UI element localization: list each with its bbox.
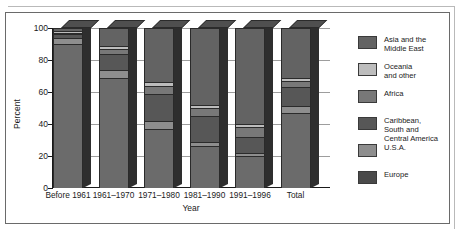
bar-top-face xyxy=(152,20,190,28)
bar-segment xyxy=(100,54,128,70)
bar-segment xyxy=(54,44,82,188)
bar-top-face xyxy=(107,20,145,28)
bar-segment xyxy=(145,28,173,82)
legend-label: Oceania and other xyxy=(384,62,450,80)
bar-side-face xyxy=(83,24,91,188)
bar-segment xyxy=(282,87,310,106)
bar-front-face xyxy=(99,28,129,188)
bar-segment xyxy=(191,108,219,116)
y-tick-label: 60 xyxy=(24,88,48,97)
legend-label: Europe xyxy=(384,170,450,179)
chart-legend: Asia and the Middle EastOceania and othe… xyxy=(358,35,450,197)
bar-segment xyxy=(145,121,173,129)
page-rule-top xyxy=(8,6,455,7)
bar-segment xyxy=(282,28,310,78)
legend-label: Caribbean, South and Central America xyxy=(384,116,450,144)
bar-column xyxy=(144,28,182,188)
legend-item[interactable]: U.S.A. xyxy=(358,143,450,161)
x-tick-label: Total xyxy=(267,190,325,200)
bar-column xyxy=(53,28,91,188)
legend-swatch-icon xyxy=(358,90,377,103)
bar-column xyxy=(190,28,228,188)
legend-item[interactable]: Africa xyxy=(358,89,450,107)
bar-segment xyxy=(191,116,219,142)
legend-label: U.S.A. xyxy=(384,143,450,152)
x-axis-title: Year xyxy=(52,203,330,213)
bar-front-face xyxy=(144,28,174,188)
bar-segment xyxy=(191,28,219,105)
y-tick-label: 40 xyxy=(24,120,48,129)
legend-swatch-icon xyxy=(358,117,377,130)
bar-segment xyxy=(236,156,264,188)
bar-segment xyxy=(236,137,264,153)
figure-page: Percent 100806040200 Before 19611961–197… xyxy=(0,0,461,235)
bar-segment xyxy=(236,127,264,137)
legend-swatch-icon xyxy=(358,171,377,184)
bar-top-face xyxy=(243,20,281,28)
bar-segment xyxy=(191,146,219,188)
legend-swatch-icon xyxy=(358,144,377,157)
bar-front-face xyxy=(281,28,311,188)
bar-front-face xyxy=(235,28,265,188)
y-tick-label: 80 xyxy=(24,56,48,65)
bar-segment xyxy=(282,113,310,188)
bar-segment xyxy=(236,28,264,124)
legend-label: Africa xyxy=(384,89,450,98)
y-tick-label: 100 xyxy=(24,24,48,33)
bar-front-face xyxy=(53,28,83,188)
bar-column xyxy=(281,28,319,188)
bar-side-face xyxy=(311,24,319,188)
legend-item[interactable]: Asia and the Middle East xyxy=(358,35,450,53)
bar-segment xyxy=(100,70,128,78)
bar-segment xyxy=(145,129,173,188)
legend-item[interactable]: Caribbean, South and Central America xyxy=(358,116,450,134)
legend-label: Asia and the Middle East xyxy=(384,35,450,53)
bar-top-face xyxy=(198,20,236,28)
legend-swatch-icon xyxy=(358,36,377,49)
legend-swatch-icon xyxy=(358,63,377,76)
chart-figure-frame: Percent 100806040200 Before 19611961–197… xyxy=(5,12,450,224)
legend-item[interactable]: Europe xyxy=(358,170,450,188)
plot-area: Percent 100806040200 Before 19611961–197… xyxy=(6,13,351,225)
bar-segment xyxy=(100,28,128,46)
y-axis-title: Percent xyxy=(12,82,22,146)
bar-segment xyxy=(100,78,128,188)
bar-top-face xyxy=(61,20,99,28)
y-tick-mark xyxy=(48,188,53,189)
bar-segment xyxy=(145,86,173,94)
bar-top-face xyxy=(289,20,327,28)
bar-segment xyxy=(145,94,173,121)
page-rule-right xyxy=(454,6,455,229)
y-tick-label: 20 xyxy=(24,152,48,161)
bar-side-face xyxy=(265,24,273,188)
bar-front-face xyxy=(190,28,220,188)
bar-column xyxy=(235,28,273,188)
bar-side-face xyxy=(129,24,137,188)
bar-column xyxy=(99,28,137,188)
bar-side-face xyxy=(174,24,182,188)
bar-side-face xyxy=(220,24,228,188)
legend-item[interactable]: Oceania and other xyxy=(358,62,450,80)
